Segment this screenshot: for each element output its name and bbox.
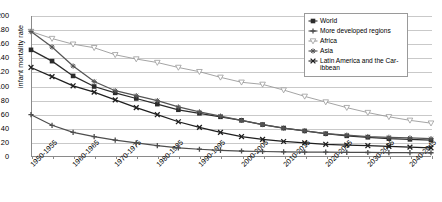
y-axis-title: infant mortality rate: [16, 7, 25, 107]
data-point-marker: [134, 140, 139, 145]
data-point-marker: [71, 74, 76, 79]
data-point-marker: [113, 137, 118, 142]
data-point-marker: [92, 84, 97, 89]
legend-item-label: Africa: [320, 36, 337, 44]
data-point-marker: [281, 149, 286, 154]
data-point-marker: [386, 150, 391, 155]
y-axis-tick-label: 200: [0, 12, 9, 19]
legend-item[interactable]: Latin America and the Car-ibbean: [308, 56, 405, 74]
y-axis-tick-label: 140: [0, 54, 9, 61]
legend-box: WorldMore developed regionsAfricaAsiaLat…: [304, 13, 408, 77]
data-point-marker: [239, 148, 244, 153]
data-point-marker: [302, 128, 307, 133]
data-point-marker: [323, 150, 328, 155]
data-point-marker: [50, 59, 55, 64]
data-point-marker: [29, 65, 34, 70]
y-axis-tick-label: 80: [0, 97, 9, 104]
infant-mortality-line-chart: infant mortality rate 020406080100120140…: [0, 0, 442, 202]
data-point-marker: [176, 145, 181, 150]
data-point-marker: [92, 79, 97, 84]
data-point-marker: [281, 125, 286, 130]
data-point-marker: [92, 134, 97, 139]
cross-icon: [308, 56, 318, 66]
data-point-marker: [428, 150, 433, 155]
y-axis-tick-label: 100: [0, 83, 9, 90]
data-point-marker: [155, 98, 160, 103]
data-point-marker: [311, 19, 316, 24]
star-icon: [308, 46, 318, 56]
data-point-marker: [71, 63, 76, 68]
y-axis-tick-label: 40: [0, 125, 9, 132]
legend-item-label: More developed regions: [320, 26, 391, 34]
legend-item[interactable]: World: [308, 16, 405, 26]
data-point-marker: [218, 148, 223, 153]
data-point-marker: [28, 29, 33, 34]
data-point-marker: [428, 121, 434, 126]
data-point-marker: [428, 136, 433, 141]
data-point-marker: [310, 28, 315, 33]
data-point-marker: [49, 123, 54, 128]
diamond-icon: [308, 16, 318, 26]
data-point-marker: [49, 44, 54, 49]
legend-item[interactable]: More developed regions: [308, 26, 405, 36]
data-point-marker: [310, 48, 315, 53]
data-point-marker: [365, 134, 370, 139]
data-point-marker: [197, 147, 202, 152]
y-axis-tick-label: 60: [0, 111, 9, 118]
data-point-marker: [71, 130, 76, 135]
data-point-marker: [113, 88, 118, 93]
data-point-marker: [407, 150, 412, 155]
data-point-marker: [260, 122, 265, 127]
data-point-marker: [323, 131, 328, 136]
data-point-marker: [386, 135, 391, 140]
data-point-marker: [134, 93, 139, 98]
data-point-marker: [50, 74, 55, 79]
data-point-marker: [218, 114, 223, 119]
data-point-marker: [29, 48, 34, 53]
data-point-marker: [344, 133, 349, 138]
data-point-marker: [176, 104, 181, 109]
data-point-marker: [365, 150, 370, 155]
data-point-marker: [344, 150, 349, 155]
legend-item[interactable]: Africa: [308, 36, 405, 46]
legend-item-label: Asia: [320, 46, 333, 54]
plus-icon: [308, 26, 318, 36]
data-point-marker: [155, 143, 160, 148]
data-point-marker: [239, 118, 244, 123]
y-axis-tick-label: 20: [0, 139, 9, 146]
y-axis-tick-label: 120: [0, 68, 9, 75]
y-axis-tick-label: 180: [0, 26, 9, 33]
legend-item-label: Latin America and the Car-ibbean: [320, 56, 398, 72]
x-axis-tick: [432, 156, 433, 159]
triangle-down-open-icon: [308, 36, 318, 46]
data-point-marker: [28, 112, 33, 117]
y-axis-tick-label: 0: [0, 153, 9, 160]
data-point-marker: [260, 149, 265, 154]
series-line: [31, 115, 431, 153]
data-point-marker: [407, 135, 412, 140]
legend-item-label: World: [320, 16, 337, 24]
data-point-marker: [197, 109, 202, 114]
legend-item[interactable]: Asia: [308, 46, 405, 56]
y-axis-tick-label: 160: [0, 40, 9, 47]
data-point-marker: [302, 149, 307, 154]
